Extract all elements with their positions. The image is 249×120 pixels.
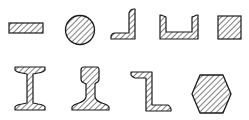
round-bar-profile: Round bar	[66, 16, 95, 45]
i-beam-profile: I-beam	[15, 67, 45, 110]
channel-profile: Channel (U-section)	[160, 15, 198, 39]
angle-profile: Angle (L-section)	[111, 9, 135, 39]
rail-profile: Rail	[72, 67, 109, 110]
z-section-profile: Z-section	[131, 72, 171, 111]
square-bar-profile: Square bar	[218, 16, 241, 39]
hexagon-bar-profile: Hexagonal bar	[192, 75, 231, 113]
flat-bar-profile: Flat bar	[9, 23, 43, 33]
profiles-diagram: Flat bar Round bar Angle (L-section) Cha…	[0, 0, 249, 120]
